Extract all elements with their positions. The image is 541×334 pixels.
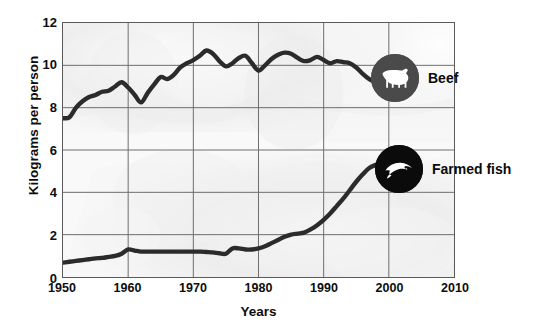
y-tick-label: 6 — [3, 144, 57, 157]
legend-item-beef[interactable]: Beef — [371, 54, 458, 102]
fish-icon — [375, 145, 423, 193]
y-tick-label: 10 — [3, 58, 57, 71]
x-tick-label: 1980 — [229, 281, 289, 295]
y-tick-label: 8 — [3, 101, 57, 114]
x-tick-label: 1990 — [294, 281, 354, 295]
y-tick-label: 2 — [3, 229, 57, 242]
x-tick-label: 2000 — [360, 281, 420, 295]
x-tick-label: 2010 — [425, 281, 485, 295]
legend-item-farmed-fish[interactable]: Farmed fish — [375, 145, 511, 193]
cow-icon — [371, 54, 419, 102]
x-tick-label: 1970 — [163, 281, 223, 295]
x-tick-label: 1950 — [32, 281, 92, 295]
series-line-beef — [63, 50, 376, 118]
chart-figure: Kilograms per person 024681012 — [0, 0, 541, 334]
y-tick-label: 4 — [3, 186, 57, 199]
x-axis-ticks: 1950196019701980199020002010 — [62, 281, 455, 299]
series-line-farmed-fish — [63, 165, 376, 263]
x-tick-label: 1960 — [98, 281, 158, 295]
y-tick-label: 12 — [3, 16, 57, 29]
y-axis-ticks: 024681012 — [0, 22, 57, 278]
legend-label-beef: Beef — [428, 70, 458, 86]
x-axis-title: Years — [62, 304, 455, 319]
legend-label-farmed-fish: Farmed fish — [432, 161, 511, 177]
